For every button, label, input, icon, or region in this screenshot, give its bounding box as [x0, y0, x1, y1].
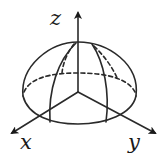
x-axis — [12, 92, 78, 133]
z-axis-label: z — [50, 8, 61, 29]
base-front-arc — [23, 96, 136, 124]
front-meridian-right — [92, 44, 107, 122]
y-axis — [78, 92, 155, 133]
back-equator-dashed — [24, 73, 135, 92]
front-meridian-left — [50, 43, 76, 122]
y-axis-label: y — [128, 132, 140, 153]
dome-outline — [23, 42, 137, 96]
x-axis-label: x — [20, 132, 32, 153]
hemisphere-diagram: z x y — [0, 0, 167, 159]
